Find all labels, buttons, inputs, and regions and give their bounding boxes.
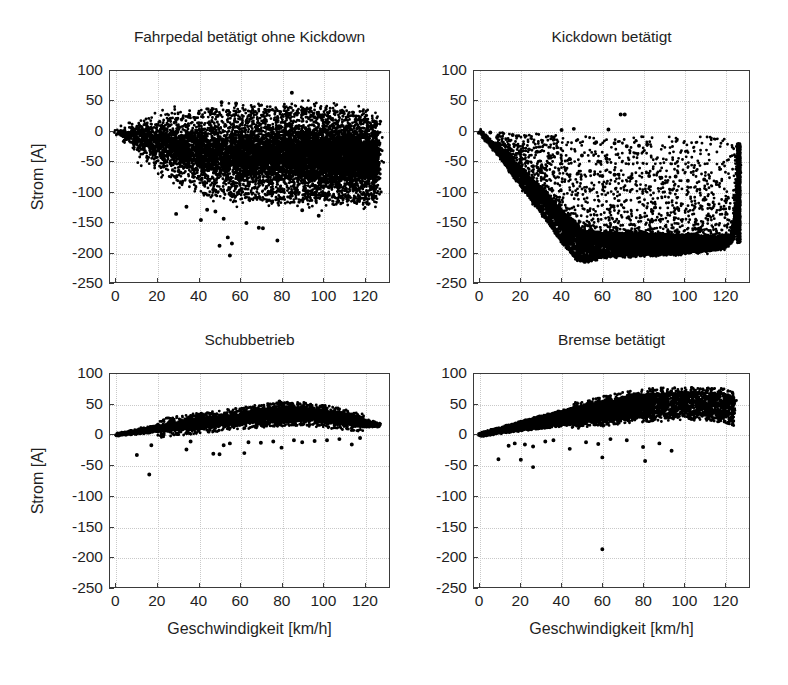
x-tickmark <box>157 278 158 283</box>
subplot-bremse: Bremse betätigt020406080100120100500-50-… <box>0 0 788 685</box>
x-tickmark <box>323 583 324 588</box>
gridline-vertical <box>241 71 242 282</box>
y-tickmark <box>473 100 478 101</box>
gridline-horizontal <box>110 435 389 436</box>
x-tick-label: 20 <box>148 287 165 305</box>
gridline-horizontal <box>474 466 749 467</box>
gridline-horizontal <box>474 132 749 133</box>
x-tick-label: 100 <box>310 592 336 610</box>
gridline-horizontal <box>110 497 389 498</box>
y-tickmark <box>109 373 114 374</box>
y-tickmark <box>109 222 114 223</box>
y-tick-label: -250 <box>407 274 467 292</box>
y-tickmark <box>109 283 114 284</box>
gridline-horizontal <box>474 435 749 436</box>
x-tickmark <box>365 583 366 588</box>
x-tick-label: 80 <box>635 592 652 610</box>
x-axis-label-schubbetrieb: Geschwindigkeit [km/h] <box>109 620 390 638</box>
plot-area-bremse <box>473 373 750 588</box>
y-tickmark <box>473 496 478 497</box>
x-tick-label: 80 <box>273 287 290 305</box>
x-tickmark <box>282 278 283 283</box>
gridline-horizontal <box>110 162 389 163</box>
gridline-horizontal <box>110 405 389 406</box>
gridline-horizontal <box>110 101 389 102</box>
y-tick-label: 100 <box>407 61 467 79</box>
y-tickmark <box>473 131 478 132</box>
x-tickmark <box>561 278 562 283</box>
x-tickmark <box>684 583 685 588</box>
x-tick-label: 60 <box>232 592 249 610</box>
x-tick-label: 120 <box>352 592 378 610</box>
y-tickmark <box>109 557 114 558</box>
gridline-vertical <box>324 71 325 282</box>
x-tick-label: 40 <box>553 287 570 305</box>
gridline-vertical <box>158 374 159 587</box>
y-tickmark <box>473 70 478 71</box>
x-tick-label: 40 <box>553 592 570 610</box>
y-tickmark <box>473 192 478 193</box>
x-tickmark <box>240 278 241 283</box>
gridline-horizontal <box>474 162 749 163</box>
subplot-title-schubbetrieb: Schubbetrieb <box>109 331 390 349</box>
x-tick-label: 120 <box>712 287 738 305</box>
gridline-horizontal <box>474 254 749 255</box>
y-tick-label: 50 <box>43 91 103 109</box>
y-tick-label: -50 <box>43 152 103 170</box>
x-tickmark <box>520 583 521 588</box>
y-tickmark <box>109 161 114 162</box>
gridline-vertical <box>241 374 242 587</box>
x-tickmark <box>479 278 480 283</box>
x-tick-label: 120 <box>352 287 378 305</box>
figure-four-panel-scatter: Fahrpedal betätigt ohne Kickdown02040608… <box>0 0 788 685</box>
y-tickmark <box>473 161 478 162</box>
x-tickmark <box>199 583 200 588</box>
y-tickmark <box>473 404 478 405</box>
x-tick-label: 20 <box>512 287 529 305</box>
y-tickmark <box>109 253 114 254</box>
gridline-horizontal <box>474 405 749 406</box>
gridline-vertical <box>521 374 522 587</box>
y-tickmark <box>109 100 114 101</box>
y-tick-label: -250 <box>43 274 103 292</box>
subplot-fahrpedal: Fahrpedal betätigt ohne Kickdown02040608… <box>0 0 788 685</box>
x-tick-label: 0 <box>111 287 120 305</box>
x-tick-label: 100 <box>671 287 697 305</box>
gridline-horizontal <box>110 528 389 529</box>
y-tick-label: 100 <box>43 364 103 382</box>
x-tickmark <box>643 278 644 283</box>
scatter-points-kickdown <box>474 71 749 282</box>
gridline-vertical <box>116 374 117 587</box>
y-tickmark <box>473 588 478 589</box>
y-tick-label: -250 <box>407 579 467 597</box>
gridline-horizontal <box>474 193 749 194</box>
x-tickmark <box>115 583 116 588</box>
gridline-vertical <box>685 374 686 587</box>
y-tick-label: 50 <box>43 395 103 413</box>
y-tickmark <box>473 434 478 435</box>
y-tickmark <box>109 70 114 71</box>
gridline-vertical <box>158 71 159 282</box>
gridline-horizontal <box>474 558 749 559</box>
y-tick-label: -100 <box>43 183 103 201</box>
x-tickmark <box>643 583 644 588</box>
x-tickmark <box>282 583 283 588</box>
gridline-horizontal <box>474 101 749 102</box>
x-tick-label: 60 <box>594 592 611 610</box>
y-tick-label: -150 <box>43 213 103 231</box>
y-tickmark <box>473 283 478 284</box>
x-tickmark <box>684 278 685 283</box>
x-tickmark <box>199 278 200 283</box>
x-tickmark <box>561 583 562 588</box>
y-tick-label: 0 <box>407 425 467 443</box>
gridline-vertical <box>726 71 727 282</box>
y-tick-label: -150 <box>407 213 467 231</box>
y-tick-label: 100 <box>407 364 467 382</box>
x-tick-label: 120 <box>712 592 738 610</box>
gridline-vertical <box>603 374 604 587</box>
y-tickmark <box>473 373 478 374</box>
gridline-vertical <box>480 374 481 587</box>
gridline-vertical <box>685 71 686 282</box>
plot-area-schubbetrieb <box>109 373 390 588</box>
x-tick-label: 40 <box>190 287 207 305</box>
